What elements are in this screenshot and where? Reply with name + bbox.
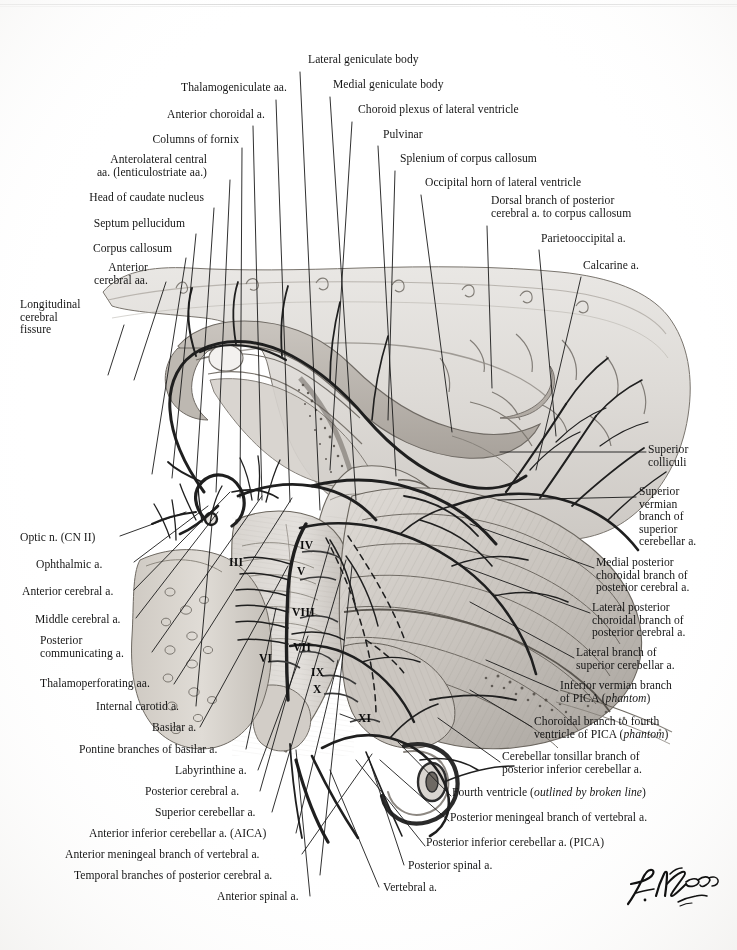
cranial-nerve-x: X [313, 683, 322, 695]
brain-arteries-illustration [0, 0, 737, 950]
cranial-nerve-ix: IX [311, 666, 324, 678]
label-occipital-horn-of-lateral-ventricle: Occipital horn of lateral ventricle [425, 177, 581, 190]
label-inferior-vermian-branch-of-pica: Inferior vermian branchof PICA (phantom) [560, 680, 672, 705]
cranial-nerve-xi: XI [358, 712, 371, 724]
label-middle-cerebral-a: Middle cerebral a. [35, 614, 121, 627]
label-anterior-cerebral-aa: Anterior cerebral aa. [94, 262, 148, 287]
label-internal-carotid-a: Internal carotid a. [96, 701, 179, 714]
label-lateral-geniculate-body: Lateral geniculate body [308, 54, 419, 67]
label-choroid-plexus-of-lateral-ventricle: Choroid plexus of lateral ventricle [358, 104, 519, 117]
label-posterior-cerebral-a: Posterior cerebral a. [145, 786, 239, 799]
label-medial-posterior-choroidal-branch: Medial posterior choroidal branch of pos… [596, 557, 689, 595]
label-columns-of-fornix: Columns of fornix [152, 134, 239, 147]
label-medial-geniculate-body: Medial geniculate body [333, 79, 444, 92]
label-dorsal-branch-of-posterior-cerebral-a: Dorsal branch of posterior cerebral a. t… [491, 195, 631, 220]
cranial-nerve-iv: IV [300, 539, 313, 551]
cranial-nerve-v: V [297, 565, 306, 577]
label-anterior-meningeal-branch-of-vertebral-a: Anterior meningeal branch of vertebral a… [65, 849, 260, 862]
label-thalamoperforating-aa: Thalamoperforating aa. [40, 678, 150, 691]
label-thalamogeniculate-aa: Thalamogeniculate aa. [181, 82, 287, 95]
label-calcarine-a: Calcarine a. [583, 260, 639, 273]
label-optic-n-cn-ii: Optic n. (CN II) [20, 532, 96, 545]
label-anterior-choroidal-a: Anterior choroidal a. [167, 109, 265, 122]
artist-signature [620, 862, 730, 912]
label-lateral-posterior-choroidal-branch: Lateral posterior choroidal branch of po… [592, 602, 685, 640]
label-choroidal-branch-to-fourth-ventricle: Choroidal branch to fourthventricle of P… [534, 716, 668, 741]
cranial-nerve-vi: VI [259, 652, 272, 664]
label-pulvinar: Pulvinar [383, 129, 423, 142]
label-posterior-meningeal-branch-of-vertebral-a: Posterior meningeal branch of vertebral … [450, 812, 647, 825]
label-anterior-cerebral-a: Anterior cerebral a. [22, 586, 113, 599]
cranial-nerve-iii: III [229, 556, 243, 568]
label-vertebral-a: Vertebral a. [383, 882, 437, 895]
label-fourth-ventricle: Fourth ventricle (outlined by broken lin… [452, 787, 646, 800]
label-ophthalmic-a: Ophthalmic a. [36, 559, 102, 572]
label-superior-vermian-branch: Superior vermian branch of superior cere… [639, 486, 696, 549]
label-parietooccipital-a: Parietooccipital a. [541, 233, 626, 246]
illustration-page: Thalamogeniculate aa. Anterior choroidal… [0, 0, 737, 950]
cranial-nerve-vii: VII [293, 641, 311, 653]
label-superior-cerebellar-a: Superior cerebellar a. [155, 807, 256, 820]
label-temporal-branches-of-posterior-cerebral-a: Temporal branches of posterior cerebral … [74, 870, 272, 883]
label-head-of-caudate-nucleus: Head of caudate nucleus [89, 192, 204, 205]
label-posterior-inferior-cerebellar-a-pica: Posterior inferior cerebellar a. (PICA) [426, 837, 604, 850]
cranial-nerve-viii: VIII [292, 606, 315, 618]
label-superior-colliculi: Superior colliculi [648, 444, 688, 469]
label-splenium-of-corpus-callosum: Splenium of corpus callosum [400, 153, 537, 166]
label-corpus-callosum: Corpus callosum [93, 243, 172, 256]
label-cerebellar-tonsillar-branch: Cerebellar tonsillar branch of posterior… [502, 751, 642, 776]
label-posterior-communicating-a: Posterior communicating a. [40, 635, 124, 660]
label-pontine-branches-of-basilar-a: Pontine branches of basilar a. [79, 744, 217, 757]
label-septum-pellucidum: Septum pellucidum [94, 218, 185, 231]
label-anterior-inferior-cerebellar-a-aica: Anterior inferior cerebellar a. (AICA) [89, 828, 266, 841]
label-posterior-spinal-a: Posterior spinal a. [408, 860, 492, 873]
label-anterolateral-central-aa: Anterolateral central aa. (lenticulostri… [97, 154, 207, 179]
label-anterior-spinal-a: Anterior spinal a. [217, 891, 299, 904]
label-longitudinal-cerebral-fissure: Longitudinal cerebral fissure [20, 299, 81, 337]
label-basilar-a: Basilar a. [152, 722, 196, 735]
label-labyrinthine-a: Labyrinthine a. [175, 765, 247, 778]
label-lateral-branch-of-superior-cerebellar-a: Lateral branch of superior cerebellar a. [576, 647, 675, 672]
